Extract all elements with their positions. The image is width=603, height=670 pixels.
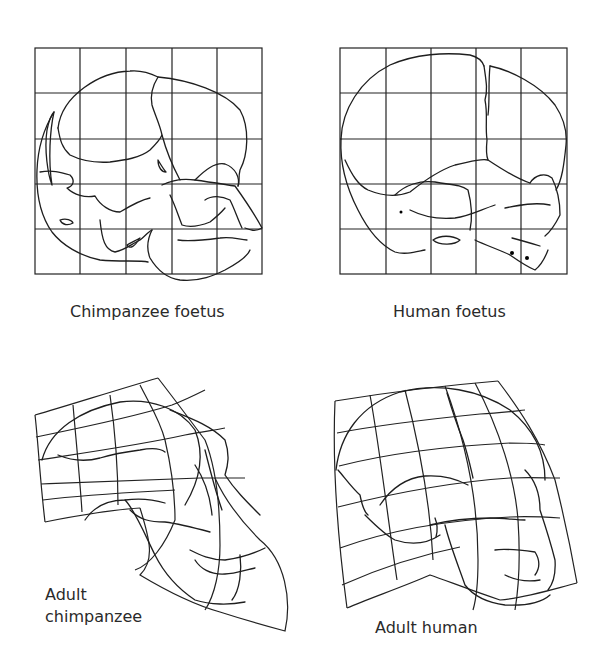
- chimpanzee-foetus-label: Chimpanzee foetus: [70, 302, 225, 322]
- adult-human-deformed-grid: [334, 381, 577, 610]
- adult-chimpanzee-label-line2: chimpanzee: [45, 607, 142, 627]
- adult-human-label: Adult human: [375, 618, 478, 638]
- chimpanzee-foetus-skull-outline: [37, 71, 262, 281]
- human-foetus-panel: [340, 48, 567, 274]
- chimpanzee-foetus-panel: [35, 48, 262, 280]
- human-foetus-skull-outline: [341, 54, 566, 270]
- adult-human-panel: [334, 381, 577, 610]
- human-foetus-grid: [340, 48, 567, 274]
- adult-chimpanzee-label-line1: Adult: [45, 585, 87, 605]
- adult-human-skull-outline: [336, 388, 555, 606]
- human-foetus-label: Human foetus: [393, 302, 506, 322]
